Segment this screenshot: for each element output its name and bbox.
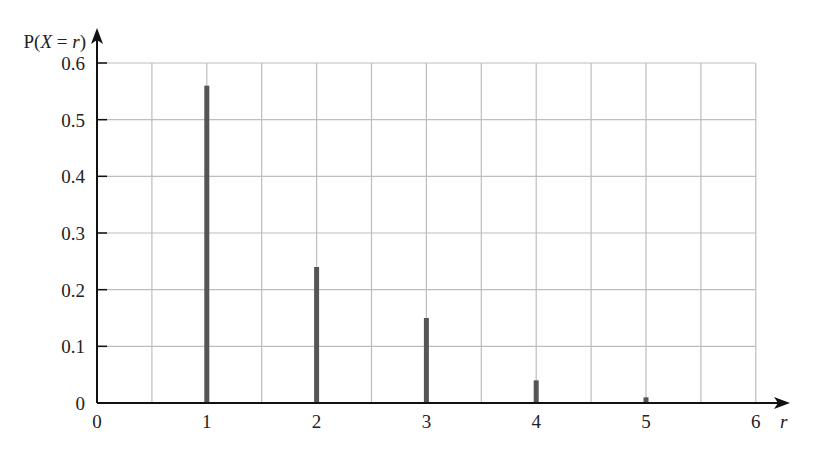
axes	[91, 28, 790, 409]
y-tick-label: 0.5	[61, 110, 85, 131]
probability-chart: 00.10.20.30.40.50.6 0123456 P(X = r) r	[0, 0, 819, 452]
x-tick-label: 4	[531, 411, 541, 432]
bar-r-2	[314, 267, 319, 403]
x-ticks: 0123456	[92, 411, 760, 432]
y-axis-title: P(X = r)	[24, 31, 86, 53]
x-tick-label: 0	[92, 411, 102, 432]
bar-r-4	[534, 380, 539, 403]
x-tick-label: 5	[641, 411, 651, 432]
bar-r-3	[424, 318, 429, 403]
x-tick-label: 2	[312, 411, 322, 432]
x-tick-label: 6	[751, 411, 761, 432]
y-tick-label: 0.3	[61, 223, 85, 244]
bar-r-1	[204, 86, 209, 403]
x-axis-title: r	[780, 411, 788, 432]
y-tick-label: 0.1	[61, 336, 85, 357]
x-tick-label: 1	[202, 411, 212, 432]
y-tick-label: 0.6	[61, 53, 85, 74]
x-tick-label: 3	[422, 411, 432, 432]
y-tick-label: 0.4	[61, 166, 85, 187]
y-tick-label: 0.2	[61, 280, 85, 301]
y-tick-label: 0	[76, 393, 86, 414]
y-ticks: 00.10.20.30.40.50.6	[61, 53, 107, 414]
